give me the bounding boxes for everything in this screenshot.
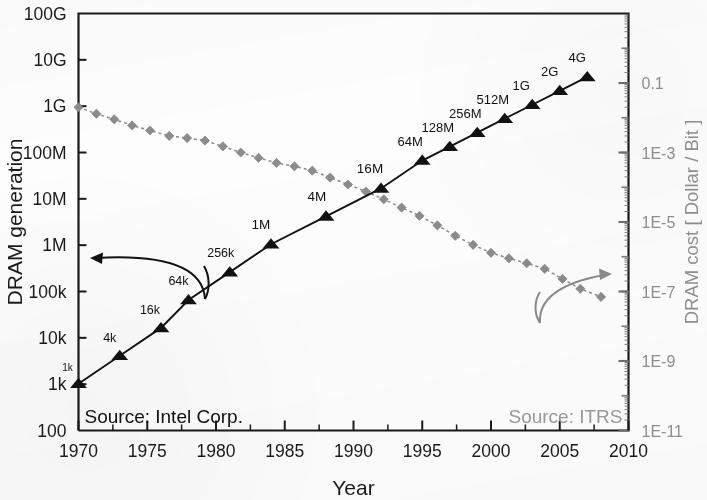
dram-generation-point-label: 256M <box>449 106 482 121</box>
y2-axis-title: DRAM cost [ Dollar / Bit ] <box>681 120 702 325</box>
y-axis-tick-label: 100G <box>24 4 67 24</box>
y2-axis-tick-label: 1E-3 <box>642 145 676 162</box>
y2-axis-tick-label: 1E-7 <box>642 284 676 301</box>
x-axis-tick-label: 2005 <box>540 441 579 461</box>
y-axis-tick-label: 100k <box>29 282 67 302</box>
dram-generation-point-label: 64k <box>168 274 189 288</box>
source-annotation-left: Source: Intel Corp. <box>85 406 243 427</box>
source-annotation-right: Source: ITRS <box>508 406 622 427</box>
x-axis-tick-label: 1985 <box>265 441 304 461</box>
dram-generation-point-label: 1M <box>252 217 271 232</box>
x-axis-tick-label: 1995 <box>403 441 442 461</box>
dram-generation-point-label: 2G <box>541 64 558 79</box>
y-axis-tick-label: 100 <box>37 421 66 441</box>
chart-figure: 1k4k16k64k256k1M4M16M64M128M256M512M1G2G… <box>0 0 707 500</box>
dram-generation-point-label: 512M <box>476 92 509 107</box>
dram-generation-point-label: 4G <box>569 50 586 65</box>
dram-generation-point-label: 4M <box>308 189 327 204</box>
dram-generation-point-label: 64M <box>398 134 423 149</box>
y-axis-title: DRAM generation <box>3 139 26 306</box>
y2-axis-tick-label: 1E-11 <box>642 423 684 440</box>
dram-generation-point-label: 16M <box>357 161 383 176</box>
dram-generation-point-label: 128M <box>421 120 454 135</box>
x-axis-title: Year <box>332 476 374 499</box>
y-axis-tick-label: 1G <box>43 96 66 116</box>
x-axis-tick-label: 1970 <box>59 441 98 461</box>
x-axis-tick-label: 1990 <box>334 441 373 461</box>
y-axis-tick-label: 1k <box>48 374 67 394</box>
y-axis-tick-label: 10M <box>32 189 66 209</box>
y-axis-tick-label: 10k <box>38 328 66 348</box>
dram-generation-point-label: 1k <box>62 362 74 373</box>
x-axis-tick-label: 1975 <box>128 441 167 461</box>
x-axis-tick-label: 2000 <box>472 441 511 461</box>
dram-generation-point-label: 256k <box>207 246 235 260</box>
dram-generation-point-label: 4k <box>103 331 117 345</box>
y2-axis-tick-label: 1E-9 <box>642 353 676 370</box>
y-axis-tick-label: 1M <box>42 235 66 255</box>
y2-axis-tick-label: 1E-5 <box>642 214 676 231</box>
y-axis-tick-label: 10G <box>33 50 66 70</box>
x-axis-tick-label: 1980 <box>197 441 236 461</box>
dram-generation-point-label: 16k <box>140 303 161 317</box>
x-axis-tick-label: 2010 <box>609 441 648 461</box>
dram-generation-point-label: 1G <box>513 78 530 93</box>
y-axis-tick-label: 100M <box>23 143 67 163</box>
dram-generation-cost-chart: 1k4k16k64k256k1M4M16M64M128M256M512M1G2G… <box>0 0 707 500</box>
y2-axis-tick-label: 0.1 <box>642 75 664 92</box>
